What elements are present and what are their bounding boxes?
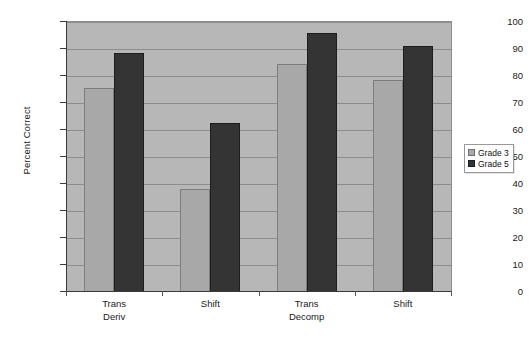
legend-swatch-icon — [468, 160, 475, 167]
bar-grade-3-2 — [277, 64, 307, 292]
x-axis-tick — [355, 291, 356, 296]
bar-grade-5-3 — [403, 46, 433, 292]
gridline — [66, 22, 451, 23]
bar-grade-5-0 — [114, 53, 144, 292]
chart-legend: Grade 3Grade 5 — [464, 144, 514, 173]
y-axis-tick-label: 80 — [478, 70, 532, 81]
bar-grade-3-1 — [180, 189, 210, 292]
x-axis-label-line: Trans — [259, 298, 355, 311]
x-axis-label-2: TransDecomp — [259, 298, 355, 323]
x-axis-label-line: Trans — [66, 298, 162, 311]
x-axis-label-1: Shift — [162, 298, 258, 311]
x-axis-tick — [162, 291, 163, 296]
bar-grade-5-1 — [210, 123, 240, 292]
legend-label: Grade 5 — [478, 159, 509, 169]
y-axis-title: Percent Correct — [21, 71, 32, 211]
x-axis-label-line: Shift — [355, 298, 451, 311]
x-axis-tick — [66, 291, 67, 296]
x-axis-label-line: Deriv — [66, 311, 162, 324]
legend-swatch-icon — [468, 149, 475, 156]
y-axis-tick-label: 90 — [478, 43, 532, 54]
x-axis-tick — [451, 291, 452, 296]
plot-area — [66, 21, 452, 292]
y-axis-tick-label: 70 — [478, 97, 532, 108]
y-axis-line — [66, 21, 67, 292]
y-axis-tick-label: 0 — [478, 286, 532, 297]
legend-label: Grade 3 — [478, 148, 509, 158]
bar-chart: Percent Correct 1009080706050403020100 T… — [0, 0, 532, 342]
bar-grade-3-3 — [373, 80, 403, 292]
y-axis-tick-label: 30 — [478, 205, 532, 216]
x-axis-label-3: Shift — [355, 298, 451, 311]
y-axis-tick-label: 60 — [478, 124, 532, 135]
x-axis-label-line: Decomp — [259, 311, 355, 324]
y-axis-tick-label: 20 — [478, 232, 532, 243]
bar-grade-3-0 — [84, 88, 114, 292]
gridline — [66, 49, 451, 50]
x-axis-label-line: Shift — [162, 298, 258, 311]
bar-grade-5-2 — [307, 33, 337, 292]
legend-item-grade-3[interactable]: Grade 3 — [468, 147, 509, 158]
x-axis-label-0: TransDeriv — [66, 298, 162, 323]
y-axis-tick-label: 40 — [478, 178, 532, 189]
legend-item-grade-5[interactable]: Grade 5 — [468, 158, 509, 169]
y-axis-tick-label: 100 — [478, 16, 532, 27]
x-axis-tick — [259, 291, 260, 296]
y-axis-tick-label: 10 — [478, 259, 532, 270]
